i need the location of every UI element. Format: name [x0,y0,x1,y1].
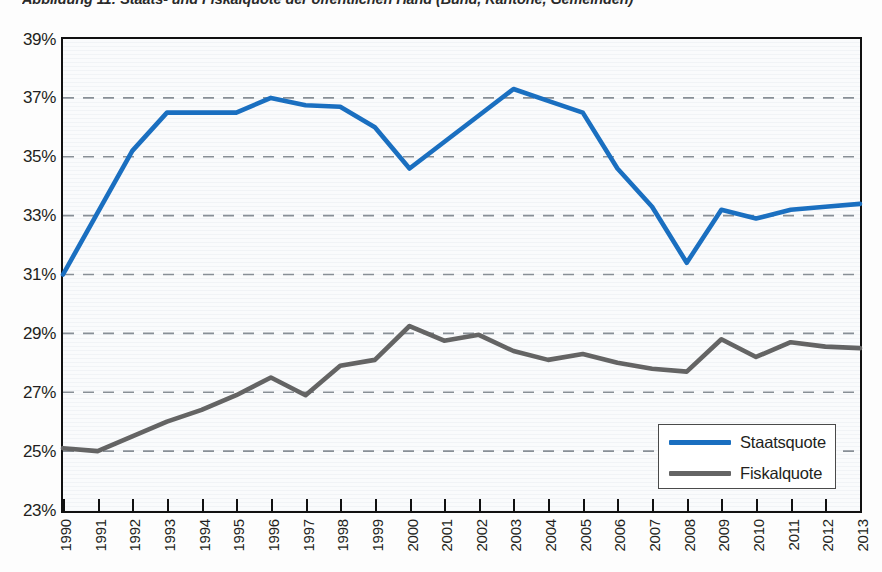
legend-item: Staatsquote [659,426,835,458]
x-axis-tick-mark [375,499,377,513]
x-axis-tick-label: 2001 [438,519,455,552]
y-axis: 39%37%35%33%31%29%27%25%23% [0,37,56,513]
x-axis-tick-label: 2011 [785,519,802,550]
x-axis-tick-label: 2012 [819,519,836,552]
x-axis-tick-label: 1994 [196,519,213,552]
x-axis-tick-label: 1997 [300,519,317,552]
x-axis-tick-mark [548,499,550,513]
x-axis-tick-label: 2013 [854,519,871,552]
x-axis-tick-mark [444,499,446,513]
chart-legend: StaatsquoteFiskalquote [658,424,836,489]
x-axis-tick-mark [236,499,238,513]
x-axis-tick-label: 2007 [646,519,663,552]
y-axis-tick-label: 29% [4,324,56,344]
x-axis-tick-mark [202,499,204,513]
x-axis-tick-label: 1990 [57,519,74,552]
legend-color-swatch [669,471,731,476]
y-axis-tick-label: 39% [4,30,56,50]
y-axis-tick-label: 35% [4,147,56,167]
x-axis: 1990199119921993199419951996199719981999… [61,513,862,572]
legend-label: Staatsquote [740,433,826,452]
x-axis-tick-mark [306,499,308,513]
x-axis-tick-label: 1993 [161,519,178,552]
x-axis-tick-mark [721,499,723,513]
x-axis-tick-mark [63,499,65,513]
x-axis-tick-label: 2000 [404,519,421,552]
y-axis-tick-label: 31% [4,265,56,285]
x-axis-tick-mark [513,499,515,513]
x-axis-tick-mark [860,499,862,513]
legend-item: Fiskalquote [659,457,835,489]
x-axis-tick-mark [271,499,273,513]
y-axis-tick-label: 25% [4,442,56,462]
x-axis-tick-mark [167,499,169,513]
y-axis-tick-label: 27% [4,383,56,403]
figure-caption: Abbildung 11: Staats- und Fiskalquote de… [22,0,882,11]
x-axis-tick-label: 2002 [473,519,490,552]
x-axis-tick-mark [98,499,100,513]
x-axis-tick-label: 2006 [611,519,628,552]
x-axis-tick-mark [652,499,654,513]
x-axis-tick-label: 1996 [265,519,282,552]
x-axis-tick-mark [687,499,689,513]
figure-page: Abbildung 11: Staats- und Fiskalquote de… [0,0,882,572]
x-axis-tick-label: 2005 [577,519,594,552]
x-axis-tick-mark [132,499,134,513]
x-axis-tick-mark [617,499,619,513]
x-axis-tick-label: 2009 [715,519,732,552]
legend-label: Fiskalquote [740,464,822,483]
x-axis-tick-label: 1992 [126,519,143,552]
x-axis-tick-mark [340,499,342,513]
x-axis-tick-label: 1999 [369,519,386,552]
y-axis-tick-label: 23% [4,501,56,521]
x-axis-tick-label: 2003 [507,519,524,552]
series-line-staatsquote [63,89,860,274]
x-axis-tick-label: 1998 [334,519,351,552]
x-axis-tick-mark [791,499,793,513]
x-axis-tick-label: 2010 [750,519,767,552]
x-axis-tick-label: 2004 [542,519,559,552]
y-axis-tick-label: 37% [4,88,56,108]
x-axis-tick-mark [825,499,827,513]
legend-color-swatch [669,440,731,445]
x-axis-tick-label: 1995 [230,519,247,552]
x-axis-tick-mark [756,499,758,513]
x-axis-tick-label: 1991 [92,519,109,552]
x-axis-tick-label: 2008 [681,519,698,552]
x-axis-tick-mark [583,499,585,513]
y-axis-tick-label: 33% [4,206,56,226]
x-axis-tick-mark [410,499,412,513]
x-axis-tick-mark [479,499,481,513]
